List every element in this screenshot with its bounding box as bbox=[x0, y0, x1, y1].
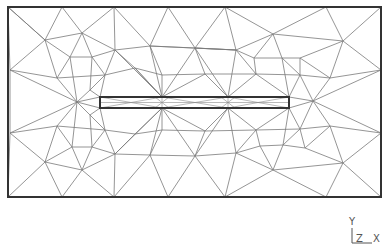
triangle-mesh bbox=[8, 7, 381, 197]
z-axis-label: Z bbox=[356, 233, 363, 244]
axis-triad: Y Z X bbox=[348, 216, 380, 244]
mesh-viewport: Y Z X bbox=[0, 0, 389, 251]
domain-boundary bbox=[8, 7, 381, 197]
y-axis-label: Y bbox=[348, 216, 356, 227]
x-axis-label: X bbox=[373, 233, 380, 244]
crack-refinement-mesh bbox=[100, 97, 289, 108]
mesh-canvas: Y Z X bbox=[0, 0, 389, 251]
